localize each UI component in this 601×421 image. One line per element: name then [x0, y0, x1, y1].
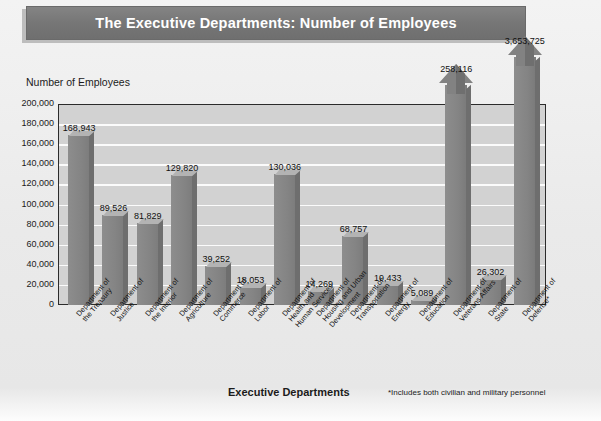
- x-category-label: Department ofJustice: [109, 277, 152, 324]
- x-axis-categories: Department ofthe TreasuryDepartment ofJu…: [0, 0, 601, 421]
- x-category-label: Department ofthe Interior: [144, 277, 187, 324]
- x-category-label: Department ofDefense*: [521, 277, 564, 324]
- chart-page: The Executive Departments: Number of Emp…: [0, 0, 601, 421]
- x-category-label: Department ofLabor: [247, 277, 290, 324]
- x-category-label: Department ofEducation: [418, 277, 461, 324]
- x-category-label: Department ofAgriculture: [178, 277, 221, 324]
- x-category-label: Department ofCommerce: [212, 277, 255, 324]
- x-category-label: Department ofEnergy: [384, 277, 427, 324]
- x-category-label: Department ofthe Treasury: [75, 277, 118, 324]
